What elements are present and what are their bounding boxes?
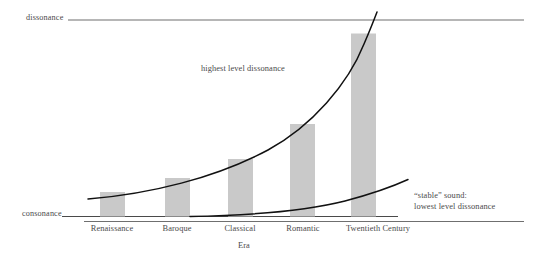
annotation-low-line-2: lowest level dissonance <box>414 201 495 212</box>
chart-graphics <box>0 0 536 276</box>
y-axis-label-dissonance: dissonance <box>26 13 63 22</box>
x-tick-twentieth-century: Twentieth Century <box>346 224 410 233</box>
bar-romantic <box>290 124 315 217</box>
x-tick-baroque: Baroque <box>162 224 191 233</box>
annotation-lowest-level-dissonance: “stable” sound: lowest level dissonance <box>414 190 495 212</box>
y-axis-label-consonance: consonance <box>22 209 62 218</box>
bar-classical <box>228 159 253 217</box>
bar-twentieth-century <box>351 34 376 217</box>
annotation-highest-level-dissonance: highest level dissonance <box>201 63 285 74</box>
bar-group <box>100 34 376 217</box>
x-tick-renaissance: Renaissance <box>91 224 134 233</box>
chart-container: dissonance consonance Renaissance Baroqu… <box>0 0 536 276</box>
x-tick-classical: Classical <box>224 224 255 233</box>
annotation-low-line-1: “stable” sound: <box>414 190 495 201</box>
x-tick-romantic: Romantic <box>286 224 319 233</box>
x-axis-title: Era <box>238 241 250 250</box>
